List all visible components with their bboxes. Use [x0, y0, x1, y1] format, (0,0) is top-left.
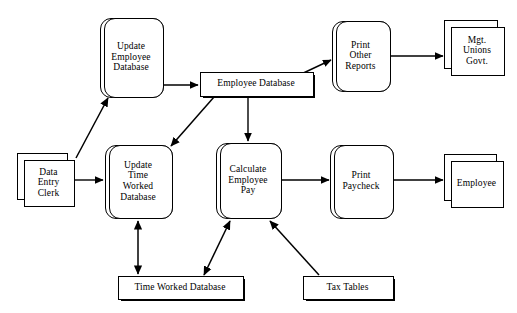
external-entity-data-entry-clerk[interactable]: Data Entry Clerk: [17, 153, 73, 205]
data-store-label: Time Worked Database: [118, 276, 242, 298]
process-update-time-worked-database[interactable]: Update Time Worked Database: [105, 145, 171, 217]
process-label: Update Time Worked Database: [105, 145, 171, 217]
data-store-time-worked-database[interactable]: Time Worked Database: [118, 276, 242, 298]
external-entity-employee[interactable]: Employee: [444, 154, 502, 206]
flow-time-worked-store-to-calculate-pay: [204, 221, 230, 275]
flow-employee-db-to-update-time-worked: [171, 97, 214, 146]
process-label: Update Employee Database: [100, 18, 162, 96]
process-print-other-reports[interactable]: Print Other Reports: [332, 21, 389, 90]
data-store-employee-database[interactable]: Employee Database: [200, 72, 312, 95]
process-label: Print Other Reports: [332, 21, 389, 90]
process-calculate-employee-pay[interactable]: Calculate Employee Pay: [216, 143, 280, 217]
external-entity-label: Employee: [451, 161, 502, 206]
external-entity-mgt-unions-govt[interactable]: Mgt. Unions Govt.: [444, 20, 503, 74]
flow-tax-tables-to-calculate-pay: [270, 221, 319, 275]
dfd-canvas: Update Employee Database Employee Databa…: [0, 0, 517, 313]
data-store-label: Tax Tables: [303, 276, 392, 298]
external-entity-label: Mgt. Unions Govt.: [451, 27, 503, 74]
process-update-employee-database[interactable]: Update Employee Database: [100, 18, 162, 96]
flow-clerk-to-update-employee-db: [76, 98, 108, 158]
process-label: Calculate Employee Pay: [216, 143, 280, 217]
external-entity-label: Data Entry Clerk: [24, 160, 73, 205]
data-store-tax-tables[interactable]: Tax Tables: [303, 276, 392, 298]
process-label: Print Paycheck: [330, 145, 392, 217]
process-print-paycheck[interactable]: Print Paycheck: [330, 145, 392, 217]
data-store-label: Employee Database: [200, 72, 312, 95]
